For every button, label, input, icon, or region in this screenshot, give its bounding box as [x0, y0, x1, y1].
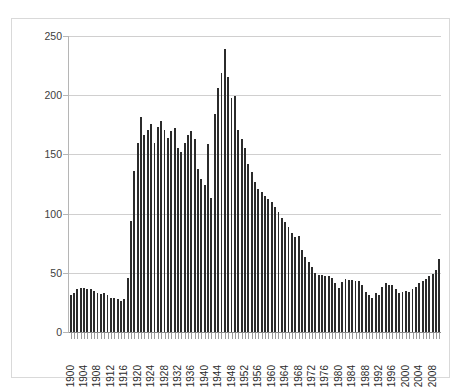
bar	[284, 222, 286, 332]
x-tick	[406, 333, 407, 339]
x-tick	[376, 333, 377, 339]
x-tick-label-1928: 1928	[160, 365, 170, 387]
bar	[237, 130, 239, 332]
bar	[438, 259, 440, 332]
x-tick	[292, 333, 293, 339]
bar	[328, 276, 330, 332]
x-tick	[248, 333, 249, 339]
x-tick-label-1980: 1980	[334, 365, 344, 387]
x-tick	[215, 333, 216, 339]
x-tick-label-1956: 1956	[253, 365, 263, 387]
bar	[150, 124, 152, 332]
x-tick-label-1976: 1976	[320, 365, 330, 387]
x-tick	[154, 333, 155, 339]
bar	[348, 280, 350, 332]
x-tick	[118, 333, 119, 339]
x-tick	[409, 333, 410, 339]
x-tick-label-1912: 1912	[106, 365, 116, 387]
x-tick	[389, 333, 390, 339]
bar	[358, 281, 360, 332]
x-tick	[282, 333, 283, 339]
bar	[402, 292, 404, 332]
bar	[341, 282, 343, 332]
y-tick-label-50: 50	[16, 268, 62, 278]
x-tick	[134, 333, 135, 339]
x-tick	[439, 333, 440, 339]
bar	[70, 295, 72, 332]
bar	[291, 233, 293, 332]
bar	[210, 198, 212, 332]
x-tick	[181, 333, 182, 339]
bar	[170, 131, 172, 332]
bar	[311, 267, 313, 332]
x-tick	[232, 333, 233, 339]
bar	[254, 182, 256, 332]
x-tick	[205, 333, 206, 339]
x-tick	[262, 333, 263, 339]
bar	[288, 227, 290, 332]
bar	[200, 179, 202, 332]
x-tick	[413, 333, 414, 339]
x-tick	[242, 333, 243, 339]
x-tick	[329, 333, 330, 339]
bar	[133, 171, 135, 332]
x-tick	[168, 333, 169, 339]
bar	[110, 298, 112, 332]
bar	[405, 291, 407, 332]
bar	[432, 274, 434, 332]
bar	[345, 279, 347, 332]
bar	[160, 121, 162, 332]
x-tick	[399, 333, 400, 339]
bar	[167, 138, 169, 332]
x-tick	[198, 333, 199, 339]
bar	[324, 276, 326, 332]
bar	[351, 280, 353, 332]
x-axis-labels: 1900190419081912191619201924192819321936…	[69, 341, 441, 387]
x-tick	[356, 333, 357, 339]
x-tick	[121, 333, 122, 339]
x-tick	[402, 333, 403, 339]
bar	[197, 169, 199, 332]
x-tick	[419, 333, 420, 339]
x-tick-label-1916: 1916	[119, 365, 129, 387]
x-tick	[332, 333, 333, 339]
bar	[318, 275, 320, 332]
x-tick	[423, 333, 424, 339]
bar	[361, 285, 363, 332]
bar	[301, 250, 303, 332]
x-tick	[185, 333, 186, 339]
bar	[221, 73, 223, 332]
x-tick	[369, 333, 370, 339]
x-tick	[285, 333, 286, 339]
bar	[261, 192, 263, 332]
x-tick-label-1936: 1936	[186, 365, 196, 387]
x-tick-label-1904: 1904	[79, 365, 89, 387]
bar	[207, 144, 209, 332]
x-tick	[258, 333, 259, 339]
x-tick	[175, 333, 176, 339]
bar	[190, 131, 192, 332]
x-tick	[77, 333, 78, 339]
x-tick-label-1900: 1900	[66, 365, 76, 387]
x-tick	[148, 333, 149, 339]
x-tick	[416, 333, 417, 339]
x-tick-label-1940: 1940	[200, 365, 210, 387]
bar	[120, 301, 122, 332]
bar	[278, 212, 280, 332]
bar	[234, 96, 236, 332]
bar	[334, 283, 336, 332]
bar	[378, 295, 380, 332]
x-tick	[195, 333, 196, 339]
bar	[204, 185, 206, 332]
bar	[80, 288, 82, 332]
x-tick	[362, 333, 363, 339]
bar	[298, 236, 300, 332]
x-tick	[128, 333, 129, 339]
x-tick-label-1972: 1972	[307, 365, 317, 387]
x-tick	[295, 333, 296, 339]
bar	[113, 298, 115, 332]
x-tick	[299, 333, 300, 339]
bar	[418, 283, 420, 332]
x-tick-label-1908: 1908	[92, 365, 102, 387]
bar	[107, 295, 109, 332]
